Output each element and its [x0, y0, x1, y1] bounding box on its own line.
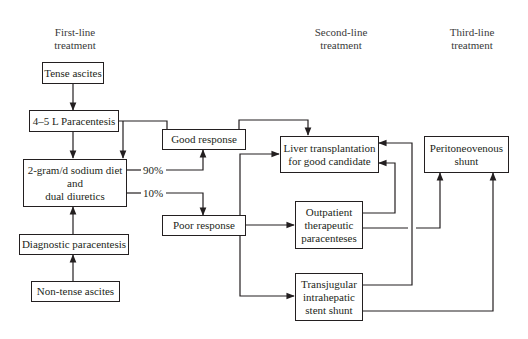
node-tips-line-3: stent shunt — [305, 304, 352, 317]
header-third-line-1: Third-line — [432, 26, 512, 39]
edge-label-90: 90% — [141, 164, 165, 176]
arrow-tips-to-pv — [362, 173, 493, 311]
node-diet-line-2: and — [67, 177, 83, 190]
node-pv-line-1: Peritoneovenous — [430, 142, 503, 155]
header-first-line-2: treatment — [30, 39, 120, 52]
node-diet-diuretics: 2-gram/d sodium diet and dual diuretics — [23, 159, 127, 207]
arrow-good-to-liver — [239, 120, 308, 135]
node-pv-line-2: shunt — [455, 155, 479, 168]
node-liver-line-2: for good candidate — [288, 155, 370, 168]
node-tips: Transjugular intrahepatic stent shunt — [295, 273, 363, 321]
header-second-line: Second-line treatment — [296, 26, 386, 52]
node-good-response-label: Good response — [171, 133, 237, 146]
node-outpatient-line-1: Outpatient — [306, 206, 352, 219]
node-tips-line-1: Transjugular — [301, 278, 357, 291]
node-non-tense-ascites-label: Non-tense ascites — [37, 285, 114, 298]
node-diagnostic-paracentesis: Diagnostic paracentesis — [19, 234, 129, 255]
node-poor-response-label: Poor response — [173, 219, 235, 232]
node-outpatient-line-3: paracenteses — [301, 232, 357, 245]
arrow-10-to-poor — [166, 193, 203, 215]
header-second-line-2: treatment — [296, 39, 386, 52]
header-third-line: Third-line treatment — [432, 26, 512, 52]
node-paracentesis-label: 4–5 L Paracentesis — [33, 115, 116, 128]
arrow-90-to-good — [166, 150, 203, 170]
node-tense-ascites: Tense ascites — [42, 62, 104, 84]
node-peritoneovenous-shunt: Peritoneovenous shunt — [424, 136, 509, 173]
node-tense-ascites-label: Tense ascites — [44, 67, 102, 80]
arrow-poor-to-tips — [240, 235, 294, 296]
arrow-outpatient-to-pv — [416, 173, 440, 228]
header-first-line: First-line treatment — [30, 26, 120, 52]
node-liver-line-1: Liver transplantation — [284, 142, 376, 155]
line-paracentesis-to-good — [118, 121, 167, 129]
node-liver-transplantation: Liver transplantation for good candidate — [280, 136, 379, 173]
edge-label-10: 10% — [141, 187, 165, 199]
node-good-response: Good response — [162, 129, 246, 150]
arrow-poor-to-liver — [240, 154, 279, 216]
node-outpatient-paracenteses: Outpatient therapeutic paracenteses — [295, 201, 363, 249]
node-diet-line-3: dual diuretics — [45, 190, 105, 203]
node-outpatient-line-2: therapeutic — [305, 219, 354, 232]
node-poor-response: Poor response — [162, 215, 246, 236]
node-diagnostic-paracentesis-label: Diagnostic paracentesis — [22, 238, 126, 251]
header-second-line-1: Second-line — [296, 26, 386, 39]
node-paracentesis: 4–5 L Paracentesis — [29, 110, 119, 132]
node-diet-line-1: 2-gram/d sodium diet — [28, 164, 123, 177]
header-third-line-2: treatment — [432, 39, 512, 52]
node-tips-line-2: intrahepatic — [303, 291, 355, 304]
node-non-tense-ascites: Non-tense ascites — [31, 281, 120, 302]
header-first-line-1: First-line — [30, 26, 120, 39]
